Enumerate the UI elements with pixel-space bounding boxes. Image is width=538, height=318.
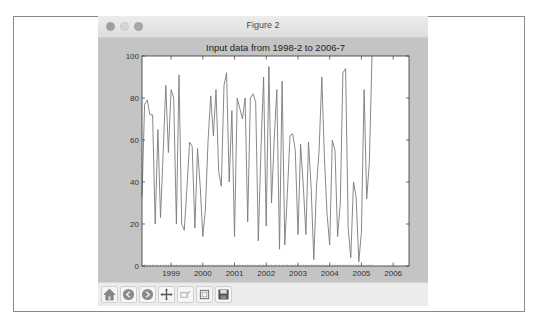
x-tick-label: 2002	[257, 269, 275, 278]
x-tick-label: 2006	[384, 269, 402, 278]
back-arrow-icon	[122, 288, 135, 301]
y-tick-label: 60	[130, 136, 139, 145]
y-tick-label: 20	[130, 220, 139, 229]
move-cross-icon	[160, 288, 173, 301]
title-bar[interactable]: Figure 2	[98, 16, 428, 38]
x-tick-label: 2004	[321, 269, 339, 278]
back-button[interactable]	[120, 286, 137, 303]
navigation-toolbar	[98, 282, 428, 306]
x-tick-label: 2003	[289, 269, 307, 278]
home-icon	[103, 288, 116, 301]
y-tick-label: 100	[126, 52, 140, 61]
configure-subplots-button[interactable]	[196, 286, 213, 303]
figure-canvas[interactable]: 0204060801001999200020012002200320042005…	[98, 38, 428, 282]
x-tick-label: 2005	[353, 269, 371, 278]
x-tick-label: 2001	[226, 269, 244, 278]
pan-button[interactable]	[158, 286, 175, 303]
window-title: Figure 2	[98, 20, 428, 30]
zoom-rect-icon	[179, 288, 192, 301]
line-chart: 0204060801001999200020012002200320042005…	[98, 38, 428, 282]
figure-window: Figure 2 0204060801001999200020012002200…	[98, 16, 428, 312]
chart-title: Input data from 1998-2 to 2006-7	[206, 42, 345, 53]
forward-arrow-icon	[141, 288, 154, 301]
save-floppy-icon	[217, 288, 230, 301]
y-tick-label: 0	[135, 262, 140, 271]
y-tick-label: 40	[130, 178, 139, 187]
y-tick-label: 80	[130, 94, 139, 103]
zoom-button[interactable]	[177, 286, 194, 303]
forward-button[interactable]	[139, 286, 156, 303]
configure-subplots-icon	[198, 288, 211, 301]
x-tick-label: 1999	[162, 269, 180, 278]
x-tick-label: 2000	[194, 269, 212, 278]
home-button[interactable]	[101, 286, 118, 303]
save-button[interactable]	[215, 286, 232, 303]
